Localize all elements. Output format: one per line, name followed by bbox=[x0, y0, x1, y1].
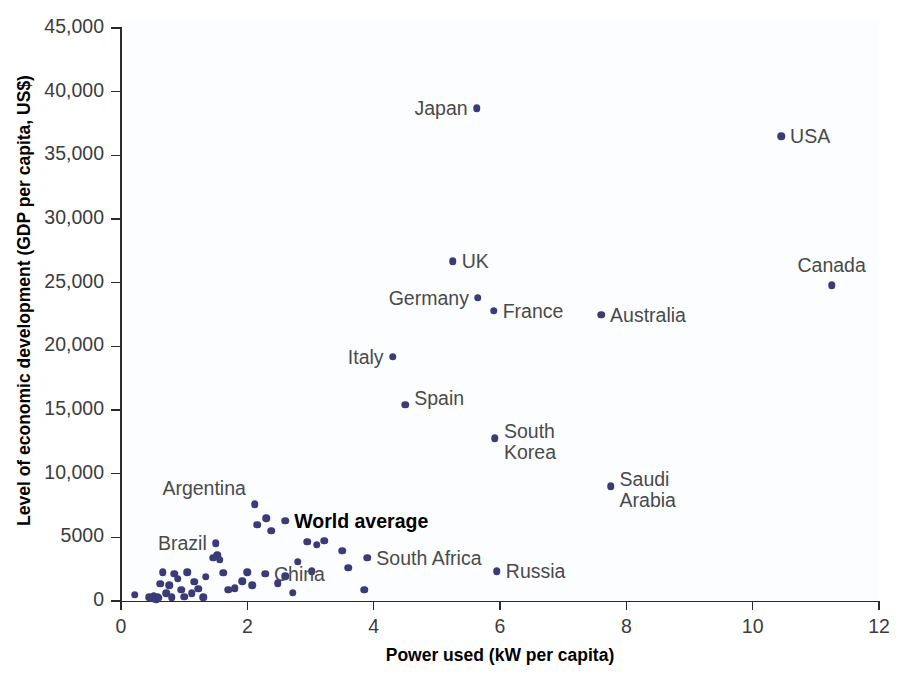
x-tick-label: 8 bbox=[596, 615, 656, 638]
data-point bbox=[304, 538, 312, 546]
y-tick bbox=[111, 91, 120, 93]
label-russia: Russia bbox=[506, 561, 566, 582]
y-tick bbox=[111, 537, 120, 539]
data-point-argentina bbox=[251, 500, 259, 508]
label-usa: USA bbox=[790, 126, 830, 147]
data-point bbox=[345, 564, 353, 572]
label-canada: Canada bbox=[797, 256, 865, 277]
data-point bbox=[184, 569, 192, 577]
scatter-chart-figure: 0500010,00015,00020,00025,00030,00035,00… bbox=[0, 0, 901, 682]
y-tick bbox=[111, 600, 120, 602]
y-tick bbox=[111, 155, 120, 157]
data-point bbox=[199, 593, 207, 601]
data-point bbox=[321, 537, 329, 545]
data-point bbox=[194, 585, 202, 593]
data-point-spain bbox=[402, 401, 410, 409]
y-axis-title: Level of economic development (GDP per c… bbox=[14, 21, 35, 581]
data-point bbox=[168, 593, 176, 601]
x-tick-label: 0 bbox=[91, 615, 151, 638]
x-axis-title: Power used (kW per capita) bbox=[121, 645, 879, 666]
data-point bbox=[239, 578, 247, 586]
y-tick-label: 0 bbox=[0, 588, 104, 611]
x-tick-label: 4 bbox=[344, 615, 404, 638]
x-tick-label: 2 bbox=[217, 615, 277, 638]
data-point-italy bbox=[389, 353, 397, 361]
data-point-south-africa bbox=[364, 554, 372, 562]
data-point bbox=[216, 556, 224, 564]
x-tick-label: 12 bbox=[849, 615, 901, 638]
label-australia: Australia bbox=[610, 304, 686, 325]
data-point-uk bbox=[449, 257, 457, 265]
data-point-germany bbox=[474, 294, 482, 302]
x-tick bbox=[752, 601, 754, 610]
label-germany: Germany bbox=[389, 288, 469, 309]
data-point-brazil bbox=[212, 539, 220, 547]
label-south-africa: South Africa bbox=[376, 547, 481, 568]
label-south-korea: South Korea bbox=[504, 421, 556, 462]
data-point-canada bbox=[828, 281, 836, 289]
data-point bbox=[360, 586, 368, 594]
x-tick bbox=[499, 601, 501, 610]
data-point bbox=[289, 589, 297, 597]
data-point-australia bbox=[597, 311, 605, 319]
data-point bbox=[165, 581, 173, 589]
y-tick bbox=[111, 473, 120, 475]
label-china: China bbox=[274, 563, 325, 584]
data-point bbox=[159, 569, 167, 577]
y-axis-line bbox=[120, 27, 122, 602]
plot-area bbox=[121, 20, 879, 601]
data-point bbox=[155, 594, 163, 602]
data-point-saudi-arabia bbox=[607, 483, 615, 491]
x-tick bbox=[626, 601, 628, 610]
data-point bbox=[249, 581, 257, 589]
x-tick bbox=[878, 601, 880, 610]
data-point bbox=[263, 514, 271, 522]
x-tick bbox=[247, 601, 249, 610]
data-point-russia bbox=[493, 567, 501, 575]
data-point-japan bbox=[473, 104, 481, 112]
data-point-usa bbox=[777, 132, 785, 140]
label-japan: Japan bbox=[414, 98, 467, 119]
y-tick bbox=[111, 27, 120, 29]
data-point bbox=[220, 569, 228, 577]
label-france: France bbox=[503, 300, 564, 321]
data-point bbox=[254, 521, 262, 529]
data-point bbox=[180, 593, 188, 601]
data-point bbox=[268, 527, 276, 535]
data-point bbox=[156, 580, 164, 588]
label-saudi-arabia: Saudi Arabia bbox=[620, 469, 676, 510]
data-point bbox=[202, 573, 210, 581]
data-point-france bbox=[490, 307, 498, 315]
x-tick bbox=[120, 601, 122, 610]
x-tick-label: 6 bbox=[470, 615, 530, 638]
data-point bbox=[231, 585, 239, 593]
label-world-average: World average bbox=[294, 510, 428, 531]
data-point bbox=[244, 569, 252, 577]
label-spain: Spain bbox=[414, 388, 464, 409]
label-brazil: Brazil bbox=[158, 533, 207, 554]
data-point-china bbox=[261, 570, 269, 578]
label-argentina: Argentina bbox=[162, 478, 245, 499]
y-tick bbox=[111, 282, 120, 284]
y-tick bbox=[111, 409, 120, 411]
y-tick bbox=[111, 346, 120, 348]
x-tick bbox=[373, 601, 375, 610]
data-point bbox=[313, 541, 321, 549]
data-point bbox=[338, 547, 346, 555]
data-point bbox=[131, 591, 139, 599]
label-uk: UK bbox=[462, 251, 489, 272]
data-point-world-average bbox=[281, 517, 289, 525]
label-italy: Italy bbox=[348, 346, 384, 367]
y-tick bbox=[111, 218, 120, 220]
x-tick-label: 10 bbox=[723, 615, 783, 638]
data-point-south-korea bbox=[491, 434, 499, 442]
data-point bbox=[174, 575, 182, 583]
